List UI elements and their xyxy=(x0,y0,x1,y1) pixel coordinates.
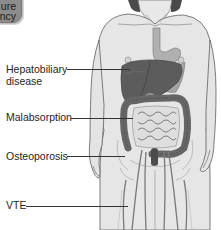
small-intestine xyxy=(132,106,179,148)
label-hepatobiliary-line1: Hepatobiliary xyxy=(6,63,67,75)
label-hepatobiliary-line2: disease xyxy=(6,75,67,87)
leader-line-hepatobiliary xyxy=(67,69,130,70)
leader-line-osteoporosis xyxy=(67,156,125,157)
leader-line-vte xyxy=(26,206,128,207)
condition-callout-box: ure ncy xyxy=(0,0,22,23)
label-osteoporosis: Osteoporosis xyxy=(6,150,68,162)
callout-line-2: ncy xyxy=(0,11,16,22)
rectum xyxy=(151,148,158,166)
label-vte: VTE xyxy=(6,199,26,211)
label-malabsorption: Malabsorption xyxy=(6,111,72,123)
label-hepatobiliary: Hepatobiliary disease xyxy=(6,63,67,87)
anatomy-diagram: ure ncy Hepatobiliary disease Malabsorpt… xyxy=(0,0,221,230)
leader-line-malabsorption xyxy=(71,118,133,119)
